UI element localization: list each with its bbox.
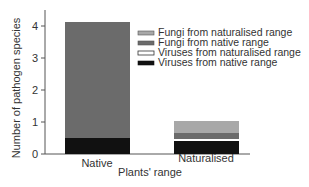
legend-item-viruses-native: Viruses from native range [138, 56, 278, 68]
legend-swatch-viruses-native [138, 61, 154, 65]
legend: Fungi from naturalised range Fungi from … [138, 26, 301, 68]
tick-label-1: 1 [32, 116, 38, 128]
legend-swatch-fungi-native [138, 41, 154, 45]
x-axis-label: Plants' range [118, 166, 182, 178]
tick-label-2: 2 [32, 84, 38, 96]
bar-naturalised-fungi-naturalised [174, 121, 239, 133]
stacked-bar-chart: 0 1 2 3 4 Number of pathogen species Nat… [0, 0, 309, 187]
bar-naturalised-fungi-native [174, 133, 239, 139]
legend-swatch-viruses-naturalised [138, 51, 154, 55]
bar-naturalised-viruses-naturalised [174, 139, 239, 141]
y-ticks [41, 26, 45, 154]
tick-label-3: 3 [32, 52, 38, 64]
tick-label-4: 4 [32, 20, 38, 32]
y-axis-label: Number of pathogen species [10, 17, 22, 158]
bar-native-viruses-native [65, 138, 130, 154]
y-tick-labels: 0 1 2 3 4 [32, 20, 38, 160]
bar-native-fungi-native [65, 22, 130, 138]
category-label-naturalised: Naturalised [178, 152, 234, 164]
bar-native [65, 22, 130, 154]
bar-naturalised [174, 121, 239, 154]
category-label-native: Native [81, 157, 112, 169]
legend-label: Viruses from native range [158, 56, 278, 68]
tick-label-0: 0 [32, 148, 38, 160]
legend-swatch-fungi-naturalised [138, 31, 154, 35]
